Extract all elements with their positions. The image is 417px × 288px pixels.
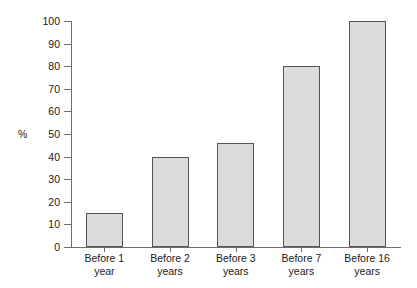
x-tick-label: Before 1year	[72, 252, 138, 278]
x-tick-label-line2: year	[72, 265, 138, 278]
y-tick-label: 20	[48, 197, 60, 208]
y-tick-mark	[64, 21, 71, 22]
bar-chart: % 0102030405060708090100 Before 1yearBef…	[0, 0, 417, 288]
y-tick-mark	[64, 179, 71, 180]
bar	[152, 157, 189, 247]
y-tick-mark	[64, 134, 71, 135]
y-tick-mark	[64, 157, 71, 158]
y-tick-mark	[64, 224, 71, 225]
y-tick-label: 0	[54, 242, 60, 253]
y-axis-line	[71, 21, 72, 248]
y-tick-mark	[64, 89, 71, 90]
y-axis-title: %	[18, 129, 27, 140]
bar	[86, 213, 123, 247]
y-tick-mark	[64, 44, 71, 45]
x-tick-label-line1: Before 16	[344, 252, 390, 264]
x-tick-label: Before 3years	[203, 252, 269, 278]
y-tick-label: 50	[48, 129, 60, 140]
bar	[349, 21, 386, 247]
y-tick-label: 40	[48, 151, 60, 162]
x-tick-label: Before 16years	[334, 252, 400, 278]
y-tick-label: 100	[42, 16, 60, 27]
y-tick-label: 80	[48, 61, 60, 72]
y-tick-mark	[64, 66, 71, 67]
bar	[283, 66, 320, 247]
x-tick-label-line1: Before 2	[150, 252, 190, 264]
y-tick-mark	[64, 111, 71, 112]
y-tick-label: 70	[48, 84, 60, 95]
x-tick-label-line2: years	[137, 265, 203, 278]
y-tick-label: 90	[48, 38, 60, 49]
y-tick-label: 60	[48, 106, 60, 117]
y-tick-mark	[64, 247, 71, 248]
x-tick-label-line1: Before 3	[216, 252, 256, 264]
y-tick-label: 10	[48, 219, 60, 230]
x-tick-label-line2: years	[334, 265, 400, 278]
x-tick-label-line2: years	[269, 265, 335, 278]
x-tick-label: Before 2years	[137, 252, 203, 278]
x-tick-label-line1: Before 7	[282, 252, 322, 264]
y-tick-label: 30	[48, 174, 60, 185]
x-tick-label-line1: Before 1	[84, 252, 124, 264]
x-tick-label: Before 7years	[269, 252, 335, 278]
y-tick-mark	[64, 202, 71, 203]
x-tick-label-line2: years	[203, 265, 269, 278]
bar	[217, 143, 254, 247]
